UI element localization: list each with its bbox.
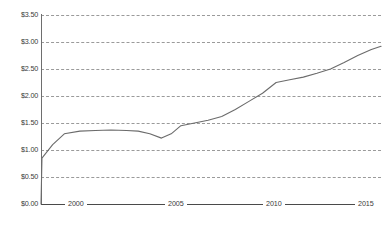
series-line-price [41,46,381,204]
line-chart: $3.50 $3.00 $2.50 $2.00 $1.50 $1.00 $0.5… [0,0,383,231]
series-layer [0,0,383,231]
